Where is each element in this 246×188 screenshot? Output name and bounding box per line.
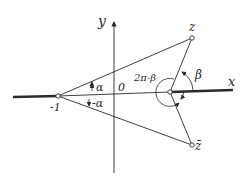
origin-label: 0: [118, 81, 125, 94]
segment-minus-one-to-zbar: [58, 96, 192, 145]
beta-label: β: [194, 68, 202, 82]
beta-arc-icon: [182, 72, 193, 91]
x-axis-label: x: [228, 74, 236, 89]
z-bar-label: z̄: [194, 139, 202, 153]
branch-cut-left: [13, 96, 58, 97]
y-axis-label: y: [97, 13, 107, 29]
point-minus-one: [56, 94, 60, 98]
alpha-label: α: [96, 81, 104, 94]
z-label: z: [188, 20, 196, 34]
minus-alpha-label: -α: [92, 97, 104, 110]
point-z: [190, 36, 194, 40]
branch-cut-right: [170, 90, 233, 92]
point-z-bar: [190, 143, 194, 147]
complex-plane-diagram: y x 0 -1 z z̄ α -α β 2π-β: [0, 0, 246, 188]
two-pi-minus-beta-label: 2π-β: [133, 72, 156, 83]
minus-one-label: -1: [50, 101, 61, 114]
segment-vertex-to-zbar: [170, 92, 192, 145]
point-vertex: [168, 90, 172, 94]
